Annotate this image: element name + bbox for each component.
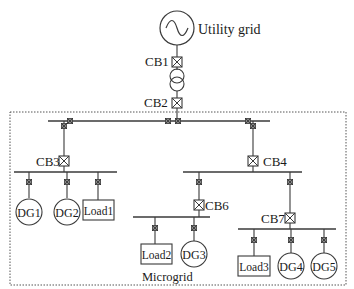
cb7-breaker-icon <box>285 213 295 223</box>
load2-label: Load2 <box>142 249 172 261</box>
utility-grid-label: Utility grid <box>198 22 261 37</box>
dg1-label: DG1 <box>17 206 40 220</box>
cb7-label: CB7 <box>261 211 285 226</box>
dg4-label: DG4 <box>279 260 302 274</box>
load3-label: Load3 <box>239 261 269 273</box>
transformer-icon <box>170 69 184 91</box>
dg2-label: DG2 <box>55 206 78 220</box>
utility-grid-source <box>160 11 194 45</box>
cb2-breaker-icon <box>172 98 182 108</box>
cb1-breaker-icon <box>172 57 182 67</box>
cb3-breaker-icon <box>59 156 69 166</box>
cb1-label: CB1 <box>145 54 169 69</box>
cb6-label: CB6 <box>205 198 229 213</box>
dg5-label: DG5 <box>312 260 335 274</box>
cb2-label: CB2 <box>144 95 168 110</box>
load1-label: Load1 <box>84 205 114 217</box>
cb4-breaker-icon <box>248 156 258 166</box>
microgrid-diagram: Utility grid CB1 CB2 CB3 DG1 DG2 Load1 C… <box>0 0 354 289</box>
dg3-label: DG3 <box>182 248 205 262</box>
cb6-breaker-icon <box>194 200 204 210</box>
cb3-label: CB3 <box>36 154 60 169</box>
cb4-label: CB4 <box>263 154 287 169</box>
microgrid-label: Microgrid <box>142 270 193 284</box>
